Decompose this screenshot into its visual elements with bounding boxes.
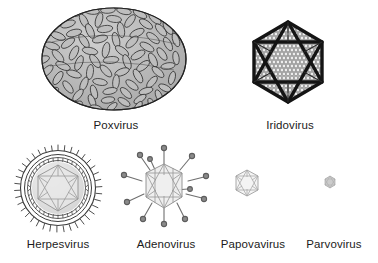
iridovirus-illustration [252,22,324,102]
label-adenovirus: Adenovirus [137,238,196,251]
parvovirus-illustration [325,176,335,188]
poxvirus-illustration [33,6,186,114]
label-poxvirus: Poxvirus [94,119,139,132]
label-parvovirus: Parvovirus [306,238,361,251]
herpesvirus-illustration [15,145,102,232]
label-iridovirus: Iridovirus [266,119,314,132]
label-papovavirus: Papovavirus [221,238,285,251]
virus-morphology-figure: Poxvirus Iridovirus Herpesvirus Adenovir… [0,0,378,263]
virus-illustrations [0,0,378,263]
papovavirus-illustration [236,170,258,196]
adenovirus-illustration [121,145,208,226]
label-herpesvirus: Herpesvirus [27,238,89,251]
